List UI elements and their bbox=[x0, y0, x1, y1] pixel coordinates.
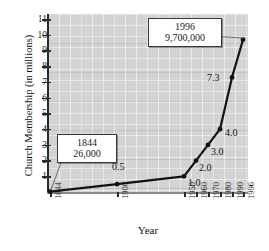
point-label-1900: 0.5 bbox=[112, 162, 125, 172]
data-point-1970 bbox=[206, 143, 211, 148]
callout-1844: 1844 26,000 bbox=[57, 134, 117, 163]
callout-leader-1844 bbox=[51, 160, 62, 190]
chart-figure: 11 10 9 8 7 6 5 4 3 2 1 1844 1900 1950 1… bbox=[0, 0, 269, 251]
point-label-1960: 2.0 bbox=[199, 163, 212, 173]
data-point-1950 bbox=[182, 174, 187, 179]
callout-1996: 1996 9,700,000 bbox=[148, 18, 222, 47]
series-points bbox=[48, 37, 246, 194]
point-label-1990: 7.3 bbox=[207, 73, 220, 83]
callout-1844-year: 1844 bbox=[62, 137, 112, 148]
callout-1996-value: 9,700,000 bbox=[153, 32, 217, 43]
data-point-1960 bbox=[194, 158, 199, 163]
point-label-1950: 1.0 bbox=[188, 178, 201, 188]
series-line bbox=[50, 40, 243, 192]
data-point-1990 bbox=[230, 75, 235, 80]
point-label-1970: 3.0 bbox=[211, 147, 224, 157]
data-point-1980 bbox=[218, 127, 223, 132]
x-axis-title: Year bbox=[48, 224, 248, 236]
callout-1844-value: 26,000 bbox=[62, 148, 112, 159]
y-axis-title: Church Membership (in millions) bbox=[23, 16, 34, 196]
data-series bbox=[0, 0, 269, 251]
point-label-1980: 4.0 bbox=[225, 128, 238, 138]
callout-1996-year: 1996 bbox=[153, 21, 217, 32]
data-point-1844 bbox=[48, 189, 53, 194]
data-point-1900 bbox=[115, 182, 120, 187]
